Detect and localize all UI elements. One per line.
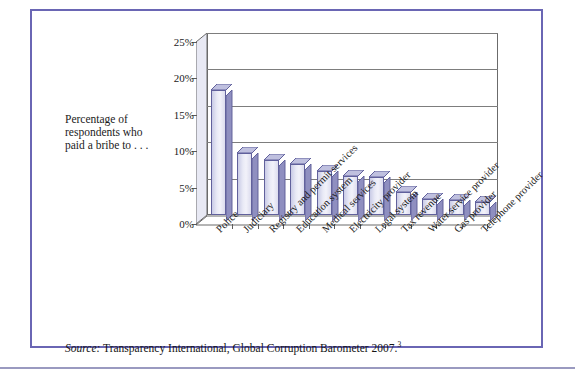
chart-caption: Percentage of respondents who paid a bri…: [65, 113, 183, 153]
x-axis-labels: PoliceJudiciaryRegistry and permit servi…: [207, 227, 537, 311]
caption-line-1: Percentage of: [65, 113, 183, 126]
caption-line-3: paid a bribe to . . .: [65, 139, 183, 152]
bar: [237, 153, 252, 215]
bar-top-face: [237, 147, 258, 153]
bar-top-face: [290, 158, 311, 164]
source-body: Transparency International, Global Corru…: [100, 342, 397, 354]
bar-side-face: [252, 153, 258, 215]
y-axis-label: 10%: [174, 146, 194, 157]
bar-side-face: [226, 90, 232, 215]
plot-side-wall: [196, 33, 207, 224]
y-axis-label: 0%: [179, 219, 194, 230]
bar: [211, 90, 226, 215]
bar-front-face: [211, 90, 226, 215]
bar-front-face: [237, 153, 252, 215]
bar-top-face: [369, 171, 390, 177]
caption-line-2: respondents who: [65, 126, 183, 139]
bar-series: [207, 33, 498, 215]
page-bottom-rule: [0, 367, 575, 369]
y-axis-label: 25%: [174, 37, 194, 48]
y-axis-label: 20%: [174, 73, 194, 84]
source-note: Source: Transparency International, Glob…: [65, 338, 401, 355]
figure-frame: Percentage of respondents who paid a bri…: [30, 9, 543, 348]
plot-area: 0%5%10%15%20%25%: [207, 33, 498, 215]
bar-side-face: [279, 160, 285, 215]
y-axis-label: 15%: [174, 109, 194, 120]
bar-top-face: [211, 84, 232, 90]
footnote-marker: 3: [397, 340, 401, 349]
bar-top-face: [264, 154, 285, 160]
chart-region: Percentage of respondents who paid a bri…: [32, 11, 545, 311]
source-label: Source:: [65, 342, 100, 354]
y-axis-label: 5%: [179, 182, 194, 193]
